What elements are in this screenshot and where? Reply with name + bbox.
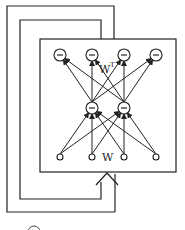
decoder-weights-superscript: T [110, 61, 115, 69]
input-node-2 [121, 154, 127, 160]
hidden-node-0 [86, 102, 98, 114]
output-node-2 [118, 49, 130, 61]
output-node-3 [150, 49, 162, 61]
input-node-1 [89, 154, 95, 160]
input-node-0 [57, 154, 63, 160]
network-diagram: W T W [0, 0, 185, 230]
legend-node-icon [28, 226, 40, 230]
output-node-1 [86, 49, 98, 61]
input-node-3 [153, 154, 159, 160]
hidden-node-1 [118, 102, 130, 114]
output-node-0 [54, 49, 66, 61]
encoder-weights-label: W [102, 151, 114, 164]
